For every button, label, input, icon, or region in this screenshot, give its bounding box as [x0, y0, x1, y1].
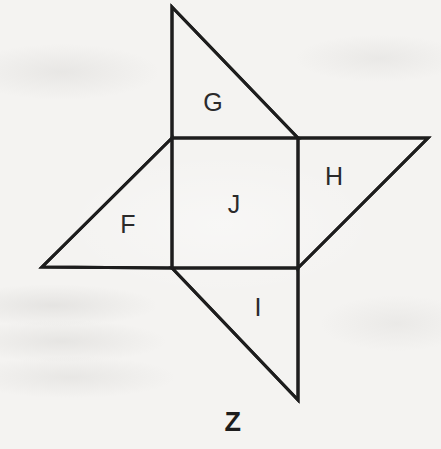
label-g: G — [203, 88, 222, 116]
label-j: J — [228, 190, 241, 218]
figure-canvas: G H I F J Z — [0, 0, 441, 449]
label-i: I — [255, 293, 262, 321]
region-triangle-h[interactable] — [298, 138, 428, 268]
pinwheel-diagram: G H I F J Z — [0, 0, 441, 449]
figure-caption-z: Z — [225, 407, 242, 437]
region-triangle-i[interactable] — [172, 268, 298, 400]
label-h: H — [325, 162, 343, 190]
region-triangle-g[interactable] — [172, 7, 298, 138]
label-f: F — [120, 210, 135, 238]
region-triangle-f[interactable] — [42, 138, 172, 268]
